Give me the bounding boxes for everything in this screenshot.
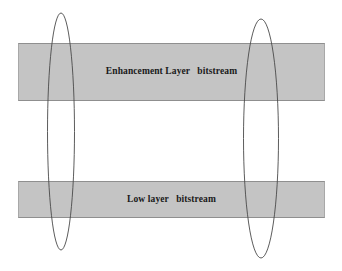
ellipse-marker-overlay — [0, 0, 342, 271]
enhancement-layer-label: Enhancement Layer bitstream — [106, 67, 237, 77]
bitstream-layer-diagram: Enhancement Layer bitstream Low layer bi… — [0, 0, 342, 271]
low-layer-label: Low layer bitstream — [127, 195, 216, 205]
low-layer-bar: Low layer bitstream — [18, 181, 325, 218]
enhancement-layer-bar: Enhancement Layer bitstream — [18, 43, 325, 101]
